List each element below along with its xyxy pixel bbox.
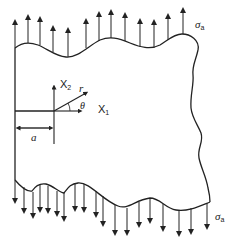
x1-axis-label: X1	[98, 104, 109, 116]
edge-crack-diagram	[0, 0, 235, 244]
crack-length-label: a	[31, 132, 37, 143]
stress-label-bottom: σa	[215, 211, 224, 223]
theta-arc	[68, 103, 70, 111]
top-stress-arrows	[15, 10, 183, 57]
coordinate-axes	[54, 87, 86, 144]
plate-outline	[15, 34, 210, 210]
stress-label-top: σa	[195, 19, 204, 31]
bottom-stress-arrows	[15, 180, 207, 234]
theta-label: θ	[80, 101, 85, 111]
radius-label: r	[79, 83, 83, 94]
x2-axis-label: X2	[60, 79, 71, 91]
